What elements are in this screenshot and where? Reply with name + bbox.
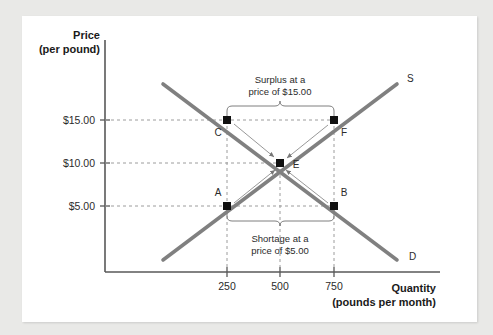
x-axis-title: Quantity [391,282,436,294]
point-marker-B[interactable] [330,202,338,210]
x-tick-label-250: 250 [218,280,236,292]
arrow-b-to-e [286,170,328,203]
y-tick-label-10: $10.00 [63,157,95,169]
supply-curve-group: S [163,73,414,260]
demand-curve-label: D [409,251,416,262]
x-tick-label-500: 500 [271,280,289,292]
y-axis-subtitle: (per pound) [39,43,100,55]
surplus-label-line1: Surplus at a [255,74,306,85]
surplus-brace [227,101,334,117]
supply-curve-label: S [407,73,414,84]
y-tick-label-5: $5.00 [69,200,95,212]
point-label-B: B [341,187,348,198]
shortage-annotation: Shortage at a price of $5.00 [227,210,334,256]
x-axis-subtitle: (pounds per month) [332,296,436,308]
shortage-label-line1: Shortage at a [251,233,309,244]
point-label-A: A [215,187,222,198]
x-tick-label-750: 750 [325,280,343,292]
y-axis-title-group: Price (per pound) [39,29,100,55]
point-marker-C[interactable] [223,116,231,124]
x-ticks: 250 500 750 [218,267,343,292]
arrow-a-to-e [234,170,275,203]
y-ticks: $15.00 $10.00 $5.00 [63,114,110,212]
point-label-F: F [341,127,347,138]
x-axis-title-group: Quantity (pounds per month) [332,282,437,308]
surplus-label-line2: price of $15.00 [249,86,312,97]
point-marker-F[interactable] [330,116,338,124]
y-axis-title: Price [73,29,100,41]
shortage-label-line2: price of $5.00 [251,245,309,256]
page-background: Price (per pound) Quantity (pounds per m… [0,0,493,335]
point-marker-A[interactable] [223,202,231,210]
surplus-annotation: Surplus at a price of $15.00 [227,74,334,117]
data-points: C F E A B [214,116,347,210]
y-tick-label-15: $15.00 [63,114,95,126]
figure-panel: Price (per pound) Quantity (pounds per m… [22,16,477,322]
point-label-E: E [293,159,300,170]
point-marker-E[interactable] [276,159,284,167]
point-label-C: C [214,127,221,138]
supply-demand-chart: Price (per pound) Quantity (pounds per m… [22,16,477,322]
